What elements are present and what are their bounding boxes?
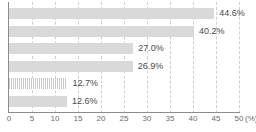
x-tick-label: 40 <box>189 114 198 124</box>
x-axis-line <box>8 112 240 113</box>
x-tick-label: 35 <box>166 114 175 124</box>
x-tick-label: 0 <box>7 114 11 124</box>
x-tick-label: 10 <box>51 114 60 124</box>
bar <box>9 61 133 72</box>
plot-area: 44.6%40.2%27.0%26.9%12.7%12.6% <box>9 0 239 113</box>
x-tick-label: 25 <box>120 114 129 124</box>
bar <box>9 26 194 37</box>
bar-value-label: 26.9% <box>138 60 164 72</box>
x-tick-label: 20 <box>97 114 106 124</box>
bar-value-label: 27.0% <box>138 42 164 54</box>
bar-chart: 44.6%40.2%27.0%26.9%12.7%12.6% 051015202… <box>0 0 256 132</box>
x-tick-label: 50 <box>235 114 244 124</box>
bar-row: 44.6% <box>9 8 239 19</box>
x-tick-label: 15 <box>74 114 83 124</box>
bar-value-label: 44.6% <box>219 7 245 19</box>
x-tick-label: 30 <box>143 114 152 124</box>
bar-row: 12.7% <box>9 78 239 89</box>
bar <box>9 78 67 89</box>
x-tick-label: 45 <box>212 114 221 124</box>
bar-row: 12.6% <box>9 96 239 107</box>
x-tick-label: 5 <box>30 114 34 124</box>
y-axis-line <box>8 2 9 113</box>
bar-value-label: 40.2% <box>199 25 225 37</box>
x-axis-unit-label: (%) <box>245 114 256 124</box>
bar-row: 26.9% <box>9 61 239 72</box>
bar <box>9 96 67 107</box>
bar-row: 40.2% <box>9 26 239 37</box>
bar <box>9 43 133 54</box>
bar-value-label: 12.7% <box>72 77 98 89</box>
bar-row: 27.0% <box>9 43 239 54</box>
bar-value-label: 12.6% <box>72 95 98 107</box>
bar <box>9 8 214 19</box>
